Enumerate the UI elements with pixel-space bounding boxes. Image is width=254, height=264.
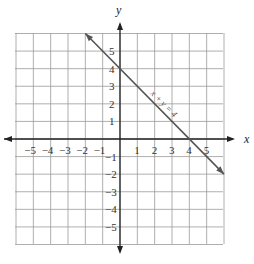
svg-text:1: 1 — [134, 144, 140, 156]
svg-text:−1: −1 — [105, 151, 117, 163]
svg-text:4: 4 — [109, 63, 115, 75]
svg-text:4: 4 — [186, 144, 192, 156]
y-axis-up-arrow-icon — [117, 22, 123, 30]
svg-text:−5: −5 — [24, 144, 36, 156]
svg-text:−3: −3 — [59, 144, 71, 156]
coordinate-plane: x y −5−4−3−2−11234554321−1−2−3−4−5 x + y… — [0, 0, 254, 264]
svg-text:2: 2 — [109, 98, 115, 110]
svg-text:−5: −5 — [105, 221, 117, 233]
svg-text:1: 1 — [109, 115, 115, 127]
x-axis-right-arrow-icon — [227, 136, 235, 142]
x-axis-left-arrow-icon — [4, 136, 12, 142]
svg-text:−4: −4 — [42, 144, 54, 156]
svg-text:−2: −2 — [105, 168, 117, 180]
x-axis-label: x — [243, 132, 250, 146]
svg-text:−2: −2 — [76, 144, 88, 156]
svg-text:−1: −1 — [94, 144, 106, 156]
svg-text:2: 2 — [152, 144, 158, 156]
svg-text:3: 3 — [169, 144, 175, 156]
y-axis-down-arrow-icon — [117, 246, 123, 254]
svg-text:5: 5 — [109, 45, 115, 57]
svg-text:−4: −4 — [105, 203, 117, 215]
svg-text:3: 3 — [109, 80, 115, 92]
svg-text:−3: −3 — [105, 186, 117, 198]
y-axis-label: y — [115, 3, 122, 17]
